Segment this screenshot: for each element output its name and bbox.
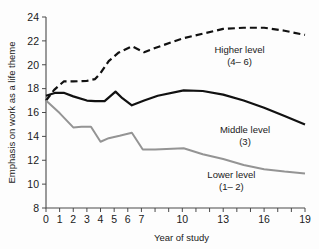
y-tick-label: 24 — [27, 11, 39, 23]
line-chart-canvas: 81012141618202224 0123456710131619 Highe… — [0, 0, 319, 249]
y-tick-label: 16 — [27, 106, 39, 118]
y-tick-label: 20 — [27, 59, 39, 71]
y-tick-label: 18 — [27, 82, 39, 94]
annotation-lower-level-line2: (1– 2) — [219, 181, 244, 192]
series-line-higher-level — [46, 28, 305, 101]
x-tick-label: 1 — [57, 213, 63, 225]
y-tick-label: 12 — [27, 154, 39, 166]
series-line-lower-level — [46, 101, 305, 174]
y-tick-label: 14 — [27, 130, 39, 142]
x-tick-label: 5 — [111, 213, 117, 225]
x-axis-tick-labels: 0123456710131619 — [43, 213, 311, 225]
x-tick-label: 2 — [70, 213, 76, 225]
x-tick-label: 19 — [299, 213, 311, 225]
y-axis-ticks — [42, 17, 46, 208]
y-tick-label: 8 — [33, 202, 39, 214]
annotation-higher-level-line1: Higher level — [214, 44, 264, 55]
y-axis-title: Emphasis on work as a life theme — [6, 41, 17, 183]
series-line-middle-level — [46, 90, 305, 124]
y-tick-label: 22 — [27, 35, 39, 47]
series-group — [46, 28, 305, 174]
x-axis-ticks — [46, 208, 305, 212]
y-tick-label: 10 — [27, 178, 39, 190]
x-tick-label: 10 — [176, 213, 188, 225]
series-annotations: Higher level (4– 6) Middle level (3) Low… — [207, 44, 270, 192]
x-tick-label: 16 — [258, 213, 270, 225]
x-tick-label: 13 — [217, 213, 229, 225]
annotation-higher-level-line2: (4– 6) — [227, 56, 252, 67]
axis-lines — [46, 17, 305, 208]
y-axis-tick-labels: 81012141618202224 — [27, 11, 39, 214]
x-axis-title: Year of study — [154, 232, 209, 243]
annotation-lower-level-line1: Lower level — [207, 169, 255, 180]
chart-figure: 81012141618202224 0123456710131619 Highe… — [0, 0, 319, 249]
x-tick-label: 0 — [43, 213, 49, 225]
annotation-middle-level-line2: (3) — [239, 136, 251, 147]
annotation-middle-level-line1: Middle level — [220, 124, 270, 135]
x-tick-label: 6 — [125, 213, 131, 225]
x-tick-label: 4 — [98, 213, 104, 225]
x-tick-label: 7 — [138, 213, 144, 225]
x-tick-label: 3 — [84, 213, 90, 225]
